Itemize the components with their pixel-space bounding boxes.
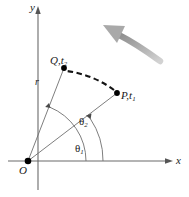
theta2-subscript: 2 xyxy=(84,121,87,128)
polar-angle-figure: y x O r Q,t2 P,t1 θ2 θ1 xyxy=(0,0,189,197)
theta2-label: θ2 xyxy=(79,116,88,128)
x-axis-arrowhead xyxy=(165,158,173,163)
theta1-arc xyxy=(90,119,103,162)
theta1-subscript: 1 xyxy=(80,148,83,155)
radius-lines-group xyxy=(28,68,117,161)
point-p-dot xyxy=(114,90,120,96)
point-p-label: P,t1 xyxy=(121,90,136,102)
rotation-arrow-tail xyxy=(119,35,160,61)
point-q-name: Q, xyxy=(50,54,61,66)
figure-canvas xyxy=(0,0,189,197)
dashed-path-group xyxy=(67,71,114,90)
dashed-trajectory-arc xyxy=(67,71,114,90)
point-p-name: P, xyxy=(121,89,129,101)
theta1-label: θ1 xyxy=(75,143,84,155)
origin-label: O xyxy=(19,165,27,176)
point-p-subscript: 1 xyxy=(132,95,135,102)
rotation-arrow-icon xyxy=(103,25,160,61)
y-axis-arrowhead xyxy=(35,6,40,14)
radius-label: r xyxy=(35,77,39,87)
point-q-label: Q,t2 xyxy=(50,55,67,67)
x-axis-label: x xyxy=(176,155,181,166)
y-axis-label: y xyxy=(30,2,35,13)
axis-group xyxy=(8,6,173,190)
point-q-subscript: 2 xyxy=(64,60,67,67)
